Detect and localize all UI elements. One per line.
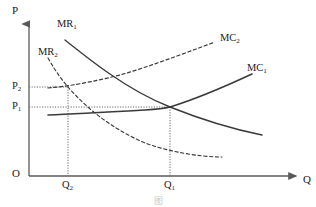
curve-label-mr2: MR2	[38, 47, 58, 58]
y-axis-label: P	[12, 5, 18, 16]
x-axis-label: Q	[303, 174, 311, 185]
figure-caption: 图	[0, 196, 316, 207]
tick-label-p1: P1	[12, 101, 21, 112]
curve-mr1	[65, 40, 262, 135]
curve-mc2	[48, 42, 215, 88]
tick-label-q1: Q1	[164, 180, 175, 191]
curve-label-mc2: MC2	[220, 33, 240, 44]
origin-label: O	[12, 168, 20, 179]
curve-label-mc1: MC1	[247, 63, 267, 74]
plot-canvas	[0, 0, 316, 207]
economics-diagram: P Q O P2 P1 Q2 Q1 MR1 MR2 MC1 MC2 图	[0, 0, 316, 207]
tick-label-p2: P2	[12, 81, 21, 92]
curve-label-mr1: MR1	[57, 19, 77, 30]
tick-label-q2: Q2	[62, 180, 73, 191]
curve-mc1	[48, 74, 252, 115]
